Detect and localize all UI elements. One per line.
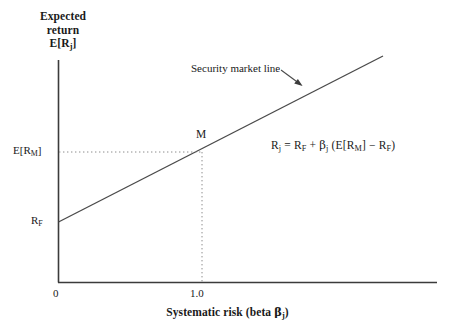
x-axis-title-suffix: ) [285,306,289,318]
y-tick-label-erm-main: E[R [13,144,31,156]
point-label-market-portfolio: M [196,128,206,142]
equation-beta-sub: j [326,144,328,153]
equation-term1-sub: F [302,144,307,153]
x-tick-label-0: 0 [53,287,59,300]
y-tick-label-rf-sub: F [38,219,42,228]
capm-equation: Rj = RF + βj (E[RM] − RF) [271,139,395,153]
equation-term2-tail: ] [362,139,366,151]
equation-minus: − [369,139,376,151]
x-axis-title: Systematic risk (beta βj) [0,306,455,320]
y-tick-label-risk-free-rate: RF [31,214,43,227]
x-axis-title-prefix: Systematic risk (beta [166,306,274,318]
y-tick-label-erm-tail: ] [38,144,42,156]
equation-term2-sub: M [355,144,363,153]
annotation-security-market-line: Security market line [191,62,280,75]
y-axis-title-line-3: E[Rj] [26,37,100,51]
equation-term2-main: E[R [336,139,355,151]
y-tick-label-expected-return-market: E[RM] [13,144,41,157]
figure-canvas: Expected return E[Rj] Systematic risk (b… [0,0,455,330]
y-axis-title-line-2: return [26,24,100,38]
y-axis-title-line-3-main: E[R [50,37,70,49]
y-axis-title-line-3-tail: ] [73,37,77,49]
y-axis-title-line-1: Expected [26,10,100,24]
y-axis-title: Expected return E[Rj] [26,10,100,51]
equation-lhs-sub: j [279,144,281,153]
equation-plus: + [310,139,317,151]
equation-close-paren: ) [391,139,395,151]
equation-equals: = [284,139,291,151]
x-axis-title-beta-symbol: β [274,305,282,319]
equation-term3-main: R [379,139,387,151]
x-tick-label-1point0: 1.0 [190,287,204,300]
y-tick-label-erm-sub: M [31,149,38,158]
equation-lhs-main: R [271,139,279,151]
equation-term1-main: R [294,139,302,151]
